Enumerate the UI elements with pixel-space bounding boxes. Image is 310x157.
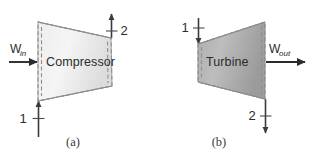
turbine-inlet-stream-1: 1 <box>181 18 204 44</box>
turbine-work-output: W out <box>266 42 305 62</box>
compressor-work-input: W in <box>9 42 37 62</box>
turbine-outlet-stream-2: 2 <box>248 99 271 133</box>
compressor-outlet-stream-2: 2 <box>106 14 128 38</box>
turbine-panel: 1 2 Turbine W out <box>181 18 305 149</box>
caption-b: (b) <box>212 135 227 149</box>
state-label-2-turbine: 2 <box>248 108 255 123</box>
state-label-1-compressor: 1 <box>19 111 26 126</box>
figure-root: 1 2 Compressor W in <box>0 0 310 157</box>
compressor-device-label: Compressor <box>46 55 115 69</box>
compressor-inlet-stream-1: 1 <box>19 101 44 137</box>
thermodynamic-device-diagram: 1 2 Compressor W in <box>0 0 310 157</box>
state-label-1-turbine: 1 <box>181 20 188 35</box>
caption-a: (a) <box>66 135 80 149</box>
work-in-subscript: in <box>20 49 27 58</box>
compressor-panel: 1 2 Compressor W in <box>9 14 128 149</box>
turbine-device-label: Turbine <box>206 55 249 69</box>
work-out-subscript: out <box>279 49 291 58</box>
state-label-2-compressor: 2 <box>120 23 127 38</box>
